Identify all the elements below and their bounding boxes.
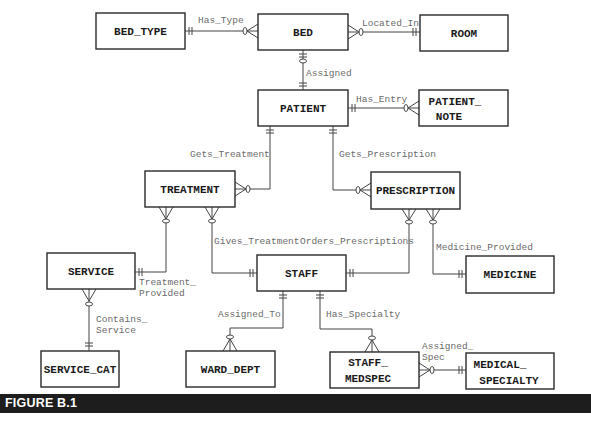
label-medicine-provided: Medicine_Provided (436, 242, 533, 253)
label-assigned-to: Assigned_To (218, 309, 281, 320)
entity-medical-specialty: MEDICAL_ SPECIALTY (466, 353, 554, 389)
label-has-specialty: Has_Specialty (326, 309, 400, 320)
svg-text:SERVICE: SERVICE (68, 266, 115, 278)
er-diagram: Has_Type Located_In Assigned Has_Entry (0, 0, 591, 394)
entity-prescription: PRESCRIPTION (371, 172, 460, 209)
svg-text:WARD_DEPT: WARD_DEPT (201, 364, 261, 376)
rel-located-in: Located_In (348, 18, 420, 39)
rel-contains-service: Contains_ Service (82, 289, 148, 351)
entity-ward-dept: WARD_DEPT (186, 351, 275, 387)
svg-text:MEDICINE: MEDICINE (484, 269, 537, 281)
svg-text:SPECIALTY: SPECIALTY (479, 375, 539, 387)
label-assigned: Assigned (306, 68, 352, 79)
entity-treatment: TREATMENT (145, 171, 235, 207)
entity-bed-type: BED_TYPE (96, 13, 185, 49)
svg-text:PRESCRIPTION: PRESCRIPTION (376, 185, 455, 197)
svg-text:STAFF_: STAFF_ (348, 357, 388, 369)
entity-bed: BED (258, 14, 348, 50)
entity-service: SERVICE (47, 253, 135, 289)
label-treatment-provided-2: Provided (139, 288, 185, 299)
label-has-type: Has_Type (198, 15, 244, 26)
svg-text:BED_TYPE: BED_TYPE (114, 26, 167, 38)
svg-text:STAFF: STAFF (285, 268, 318, 280)
rel-has-specialty: Has_Specialty (316, 291, 400, 352)
svg-text:SERVICE_CAT: SERVICE_CAT (44, 364, 117, 376)
label-gets-prescription: Gets_Prescription (339, 149, 436, 160)
label-assigned-spec-1: Assigned_ (422, 341, 474, 352)
figure-caption: FIGURE B.1 (5, 396, 77, 410)
svg-text:ROOM: ROOM (451, 28, 478, 40)
rel-assigned-to: Assigned_To (218, 291, 287, 351)
svg-text:TREATMENT: TREATMENT (160, 184, 220, 196)
rel-has-type: Has_Type (185, 15, 258, 38)
label-assigned-spec-2: Spec (422, 352, 445, 363)
label-contains-service-1: Contains_ (96, 314, 148, 325)
label-has-entry: Has_Entry (356, 94, 408, 105)
svg-text:PATIENT: PATIENT (280, 103, 327, 115)
label-gives-treatment: Gives_Treatment (214, 236, 300, 247)
figure-caption-bar: FIGURE B.1 (0, 394, 591, 413)
rel-has-entry: Has_Entry (348, 94, 419, 115)
svg-text:NOTE: NOTE (436, 111, 463, 123)
svg-text:MEDSPEC: MEDSPEC (345, 373, 392, 385)
entity-patient: PATIENT (258, 90, 348, 126)
svg-text:PATIENT_: PATIENT_ (429, 96, 482, 108)
label-located-in: Located_In (362, 18, 419, 29)
label-contains-service-2: Service (96, 325, 136, 336)
svg-text:MEDICAL_: MEDICAL_ (474, 359, 527, 371)
label-gets-treatment: Gets_Treatment (190, 149, 270, 160)
label-orders-prescriptions: Orders_Prescriptions (300, 236, 414, 247)
entity-service-cat: SERVICE_CAT (41, 351, 119, 387)
svg-text:BED: BED (293, 27, 313, 39)
rel-treatment-provided: Treatment_ Provided (135, 207, 196, 299)
entity-staff: STAFF (257, 255, 346, 291)
entity-patient-note: PATIENT_ NOTE (419, 90, 508, 126)
entity-room: ROOM (420, 15, 508, 51)
entity-staff-medspec: STAFF_ MEDSPEC (330, 352, 419, 388)
rel-assigned: Assigned (299, 50, 352, 90)
entity-medicine: MEDICINE (466, 256, 554, 293)
label-treatment-provided-1: Treatment_ (139, 277, 196, 288)
